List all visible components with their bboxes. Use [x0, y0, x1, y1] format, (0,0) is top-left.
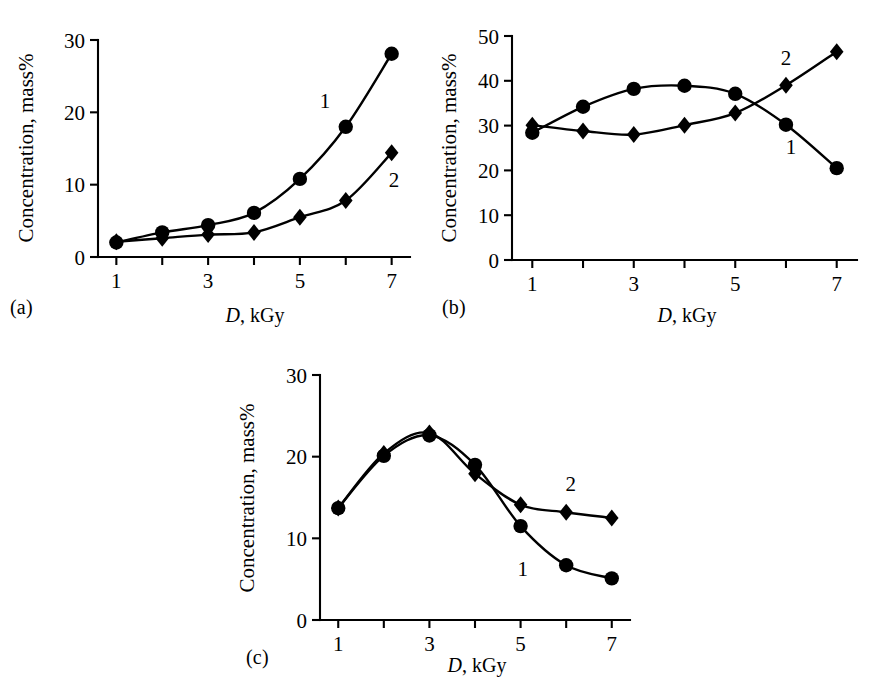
y-axis-title: Concentration, mass%	[235, 404, 259, 593]
plot-area: 01020301357Concentration, mass%D, kGy12	[14, 29, 410, 328]
y-tick-label: 20	[286, 445, 307, 469]
data-point-marker-circle	[559, 558, 573, 572]
x-axis-ticks: 1357	[111, 257, 397, 293]
series-label-1: 1	[320, 89, 331, 113]
y-tick-label: 30	[286, 364, 307, 388]
plot-area: 01020301357Concentration, mass%D, kGy12	[235, 364, 630, 678]
y-axis-ticks: 0102030	[286, 364, 320, 633]
x-axis-title-units: , kGy	[672, 304, 716, 327]
y-tick-label: 10	[64, 173, 85, 197]
plot-area: 010203040501357Concentration, mass%D, kG…	[437, 25, 857, 328]
y-tick-label: 30	[478, 114, 499, 138]
x-tick-label: 5	[295, 269, 306, 293]
x-axis-title-symbol: D	[657, 304, 673, 326]
panel-caption-c: (c)	[246, 646, 269, 669]
y-tick-label: 0	[297, 609, 308, 633]
data-point-marker-diamond	[779, 77, 793, 94]
y-axis-title: Concentration, mass%	[14, 54, 38, 243]
chart-svg-b: 010203040501357Concentration, mass%D, kG…	[432, 0, 879, 350]
data-point-marker-circle	[677, 79, 691, 93]
data-series-1	[109, 47, 399, 250]
series-label-1: 1	[786, 135, 797, 159]
data-point-marker-diamond	[293, 209, 307, 226]
series-label-2: 2	[565, 472, 576, 496]
data-point-marker-diamond	[514, 496, 528, 513]
y-axis-ticks: 01020304050	[478, 25, 512, 273]
data-point-marker-circle	[576, 100, 590, 114]
series-label-2: 2	[781, 46, 792, 70]
y-tick-label: 50	[478, 25, 499, 49]
axes	[512, 36, 857, 260]
x-tick-label: 7	[831, 272, 842, 296]
y-axis-ticks: 0102030	[64, 29, 98, 270]
x-axis-title-symbol: D	[447, 654, 463, 676]
x-axis-title: D, kGy	[225, 304, 285, 327]
y-tick-label: 0	[75, 246, 86, 270]
data-point-marker-diamond	[627, 126, 641, 143]
data-point-marker-diamond	[605, 509, 619, 526]
chart-svg-c: 01020301357Concentration, mass%D, kGy12	[222, 350, 662, 699]
chart-panel-b: 010203040501357Concentration, mass%D, kG…	[432, 0, 879, 350]
x-tick-label: 5	[515, 632, 526, 656]
x-tick-label: 3	[424, 632, 435, 656]
y-axis-title: Concentration, mass%	[437, 54, 461, 243]
y-tick-label: 20	[64, 101, 85, 125]
data-point-marker-circle	[627, 82, 641, 96]
x-axis-ticks: 1357	[333, 620, 617, 656]
data-point-marker-circle	[513, 519, 527, 533]
data-point-marker-circle	[605, 571, 619, 585]
y-tick-label: 40	[478, 69, 499, 93]
x-tick-label: 1	[333, 632, 344, 656]
x-axis-title-units: , kGy	[240, 304, 284, 327]
series-label-2: 2	[389, 168, 400, 192]
data-series-1	[331, 428, 619, 585]
axes	[320, 375, 630, 620]
data-point-marker-circle	[293, 172, 307, 186]
x-tick-label: 7	[607, 632, 618, 656]
data-point-marker-diamond	[247, 224, 261, 241]
x-tick-label: 3	[203, 269, 214, 293]
data-series-2	[526, 43, 844, 143]
y-tick-label: 10	[478, 204, 499, 228]
data-point-marker-diamond	[678, 117, 692, 134]
data-point-marker-diamond	[559, 504, 573, 521]
y-tick-label: 0	[489, 249, 500, 273]
x-axis-title: D, kGy	[447, 654, 507, 677]
x-tick-label: 1	[111, 269, 122, 293]
x-tick-label: 7	[386, 269, 397, 293]
data-point-marker-diamond	[339, 192, 353, 209]
x-axis-title: D, kGy	[657, 304, 717, 327]
x-axis-title-units: , kGy	[462, 654, 506, 677]
chart-panel-a: 01020301357Concentration, mass%D, kGy12 …	[0, 0, 440, 350]
panel-caption-a: (a)	[10, 296, 33, 319]
y-tick-label: 10	[286, 527, 307, 551]
x-tick-label: 1	[527, 272, 538, 296]
data-point-marker-circle	[247, 206, 261, 220]
data-point-marker-circle	[384, 47, 398, 61]
data-point-marker-diamond	[576, 122, 590, 139]
x-axis-title-symbol: D	[225, 304, 241, 326]
data-point-marker-circle	[339, 120, 353, 134]
data-point-marker-circle	[728, 87, 742, 101]
series-label-1: 1	[518, 557, 529, 581]
data-point-marker-circle	[830, 161, 844, 175]
data-point-marker-diamond	[830, 43, 844, 60]
data-point-marker-circle	[779, 118, 793, 132]
y-tick-label: 20	[478, 159, 499, 183]
data-point-marker-diamond	[728, 105, 742, 122]
chart-panel-c: 01020301357Concentration, mass%D, kGy12 …	[222, 350, 662, 699]
x-axis-ticks: 1357	[527, 260, 842, 296]
x-tick-label: 5	[730, 272, 741, 296]
panel-caption-b: (b)	[442, 296, 466, 319]
y-tick-label: 30	[64, 29, 85, 53]
x-tick-label: 3	[629, 272, 640, 296]
chart-svg-a: 01020301357Concentration, mass%D, kGy12	[0, 0, 440, 350]
